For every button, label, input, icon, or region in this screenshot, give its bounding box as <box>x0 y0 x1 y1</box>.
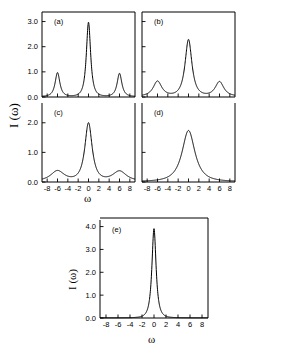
y-tick-label: 3.0 <box>28 17 38 26</box>
x-tick-label: 6 <box>188 320 192 329</box>
panel-label-b: (b) <box>154 17 164 26</box>
panel-label-a: (a) <box>54 17 64 26</box>
x-tick-label: 2 <box>164 320 168 329</box>
x-tick-label: -2 <box>175 184 182 193</box>
x-tick-label: -2 <box>139 320 146 329</box>
x-tick-label: 0 <box>186 184 190 193</box>
spectrum-curve-c <box>42 123 135 180</box>
spectrum-curve-e <box>100 229 208 318</box>
x-tick-label: -8 <box>103 320 110 329</box>
x-tick-label: -8 <box>144 184 151 193</box>
x-tick-label: -6 <box>115 320 122 329</box>
x-tick-label: 8 <box>128 184 132 193</box>
y-tick-label: 0.0 <box>28 93 38 102</box>
x-tick-label: -4 <box>64 184 71 193</box>
panel-label-d: (d) <box>154 108 164 117</box>
y-tick-label: 3.0 <box>86 245 96 254</box>
x-tick-label: -4 <box>164 184 171 193</box>
x-tick-label: 0 <box>152 320 156 329</box>
x-tick-label: -6 <box>54 184 61 193</box>
x-tick-label: 8 <box>228 184 232 193</box>
y-tick-label: 2.0 <box>28 42 38 51</box>
x-tick-label: 4 <box>176 320 180 329</box>
x-tick-label: 8 <box>200 320 204 329</box>
y-tick-label: 4.0 <box>86 222 96 231</box>
x-tick-label: -2 <box>75 184 82 193</box>
panel-label-c: (c) <box>54 108 63 117</box>
y-tick-label: 2.0 <box>28 118 38 127</box>
x-tick-label: 0 <box>86 184 90 193</box>
y-tick-label: 0.0 <box>86 314 96 323</box>
y-tick-label: 1.0 <box>28 148 38 157</box>
x-tick-label: 2 <box>97 184 101 193</box>
figure-root: I (ω) ω I (ω) ω (a)0.01.02.03.0(b)(c)0.0… <box>0 0 281 354</box>
y-tick-label: 1.0 <box>86 291 96 300</box>
x-tick-label: 4 <box>207 184 211 193</box>
spectrum-curve-a <box>42 22 135 96</box>
x-tick-label: -4 <box>127 320 134 329</box>
x-tick-label: 6 <box>117 184 121 193</box>
x-tick-label: 6 <box>217 184 221 193</box>
x-tick-label: -8 <box>44 184 51 193</box>
x-tick-label: 2 <box>197 184 201 193</box>
spectrum-curve-d <box>142 130 235 180</box>
y-tick-label: 0.0 <box>28 178 38 187</box>
axis-frame <box>100 220 208 318</box>
spectrum-curve-b <box>142 39 235 95</box>
y-tick-label: 1.0 <box>28 67 38 76</box>
panel-label-e: (e) <box>112 225 122 234</box>
x-tick-label: -6 <box>154 184 161 193</box>
y-tick-label: 2.0 <box>86 268 96 277</box>
plot-canvas: (a)0.01.02.03.0(b)(c)0.01.02.0-8-6-4-202… <box>0 0 281 354</box>
x-tick-label: 4 <box>107 184 111 193</box>
